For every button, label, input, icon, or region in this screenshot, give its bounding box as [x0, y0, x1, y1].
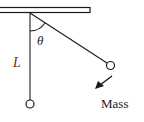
pendulum-diagram: θ L Mass — [0, 0, 144, 122]
mass-label: Mass — [101, 96, 128, 111]
angle-arc — [30, 23, 45, 31]
length-label: L — [12, 55, 21, 70]
displaced-bob — [107, 62, 115, 70]
motion-arrow-shaft — [100, 76, 112, 85]
motion-arrow-head — [95, 81, 104, 89]
angle-label: θ — [37, 33, 44, 48]
ceiling-support — [0, 8, 90, 13]
rest-bob — [26, 100, 34, 108]
